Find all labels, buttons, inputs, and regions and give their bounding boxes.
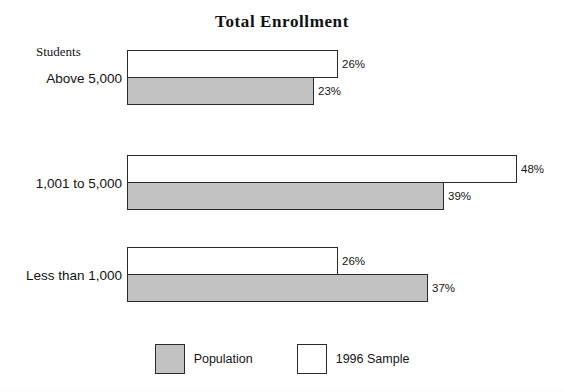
bar-sample-above-5000[interactable]: 26% — [127, 50, 338, 78]
bars-1001-to-5000: 48% 39% — [127, 155, 517, 210]
bars-less-than-1000: 26% 37% — [127, 247, 428, 302]
legend-label-population: Population — [194, 352, 253, 366]
category-label-above-5000: Above 5,000 — [46, 71, 122, 86]
category-label-1001-to-5000: 1,001 to 5,000 — [36, 176, 122, 191]
bar-value-sample-less-than-1000: 26% — [342, 255, 365, 267]
legend-label-1996-sample: 1996 Sample — [336, 352, 410, 366]
chart-legend: Population 1996 Sample — [0, 344, 564, 374]
bar-value-population-less-than-1000: 37% — [432, 282, 455, 294]
legend-item-population[interactable]: Population — [155, 344, 253, 374]
chart-title: Total Enrollment — [0, 12, 564, 32]
bar-population-1001-to-5000[interactable]: 39% — [127, 182, 444, 210]
bar-population-less-than-1000[interactable]: 37% — [127, 274, 428, 302]
legend-item-1996-sample[interactable]: 1996 Sample — [297, 344, 410, 374]
bar-value-sample-above-5000: 26% — [342, 58, 365, 70]
bars-above-5000: 26% 23% — [127, 50, 338, 105]
legend-swatch-sample-icon — [297, 344, 327, 374]
category-label-less-than-1000: Less than 1,000 — [26, 268, 122, 283]
bar-value-population-above-5000: 23% — [318, 85, 341, 97]
bar-value-sample-1001-to-5000: 48% — [521, 163, 544, 175]
bar-group-less-than-1000: Less than 1,000 26% 37% — [0, 247, 564, 303]
bar-sample-1001-to-5000[interactable]: 48% — [127, 155, 517, 183]
bar-group-above-5000: Above 5,000 26% 23% — [0, 50, 564, 106]
page-bottom-edge — [0, 388, 564, 392]
bar-sample-less-than-1000[interactable]: 26% — [127, 247, 338, 275]
enrollment-bar-chart: Total Enrollment Students Above 5,000 26… — [0, 0, 564, 392]
legend-swatch-population-icon — [155, 344, 185, 374]
bar-group-1001-to-5000: 1,001 to 5,000 48% 39% — [0, 155, 564, 211]
bar-value-population-1001-to-5000: 39% — [448, 190, 471, 202]
bar-population-above-5000[interactable]: 23% — [127, 77, 314, 105]
